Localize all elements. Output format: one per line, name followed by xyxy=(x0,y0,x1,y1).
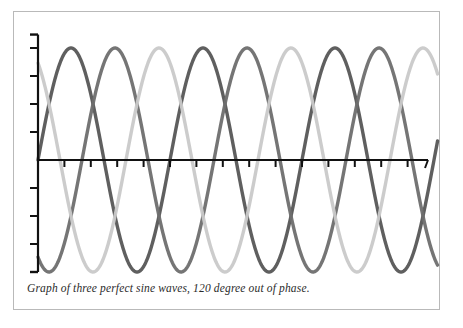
figure-container: Graph of three perfect sine waves, 120 d… xyxy=(0,0,463,328)
x-axis-end-cap xyxy=(425,160,428,168)
plot-area xyxy=(0,0,463,328)
sine-wave-chart xyxy=(0,0,463,328)
figure-caption: Graph of three perfect sine waves, 120 d… xyxy=(27,281,422,295)
